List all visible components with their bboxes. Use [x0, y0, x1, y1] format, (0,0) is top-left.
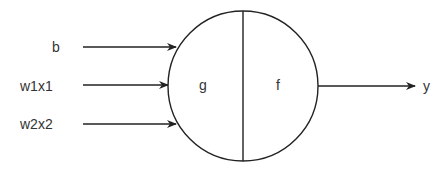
input-label-w2x2: w2x2 — [20, 117, 53, 131]
input-label-b: b — [52, 40, 60, 54]
node-label-f: f — [276, 78, 280, 92]
output-label-y: y — [423, 79, 430, 93]
node-label-g: g — [199, 78, 207, 92]
perceptron-diagram — [0, 0, 447, 172]
input-label-w1x1: w1x1 — [20, 79, 53, 93]
